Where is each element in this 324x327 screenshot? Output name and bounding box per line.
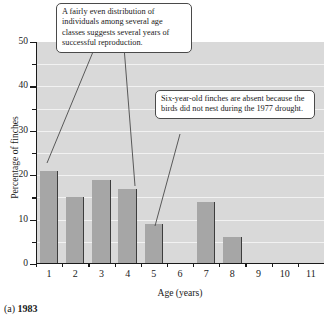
finch-age-distribution-figure: 01020304050 1234567891011 Percentage of … — [0, 0, 324, 327]
callout-drought: Six-year-old finches are absent because … — [155, 90, 315, 119]
callout-reproduction: A fairly even distribution of individual… — [56, 3, 192, 53]
leader-line-to-bar-4 — [124, 47, 135, 186]
leader-line-to-age-6 — [155, 134, 180, 226]
leader-line-to-bar-1 — [47, 47, 95, 163]
